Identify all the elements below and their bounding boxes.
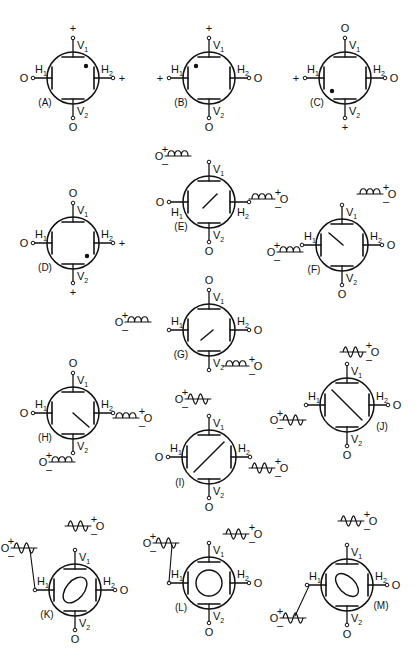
beam-trace-line — [203, 194, 217, 208]
label-v2-sub: 2 — [358, 440, 362, 447]
terminal-h1 — [31, 411, 35, 415]
label-h1-sub: 1 — [315, 70, 319, 77]
source-lead-wire — [295, 586, 309, 616]
caption-f: (F) — [308, 264, 321, 275]
polarity-h2: + — [119, 237, 125, 249]
crt-deflection-figure: V1V2H1H2+OO+(A)V1V2H1H2+O+O(B)V1V2H1H2O+… — [0, 0, 419, 658]
polarity-h2: O — [392, 579, 401, 591]
beam-trace-ellipse — [58, 573, 91, 608]
source-terminal: O — [369, 515, 378, 527]
crt-diagram-i: V1V2H1H2OO(I)+–O+–O — [155, 386, 289, 513]
label-v2-sub: 2 — [356, 112, 360, 119]
crt-envelope-circle — [183, 557, 235, 609]
dc-source-coil-icon — [226, 361, 246, 366]
beam-spot — [84, 64, 88, 68]
terminal-h1 — [300, 243, 304, 247]
label-v1-sub: 1 — [84, 46, 88, 53]
terminal-v1 — [71, 371, 75, 375]
crt-diagram-c: V1V2H1H2O++O(C) — [293, 22, 399, 133]
label-h2: H2 — [237, 568, 249, 582]
dc-source-h1: +–O — [115, 309, 151, 335]
ac-source-h1: +–O — [1, 535, 37, 589]
ac-source-v1: +–O — [175, 386, 211, 412]
crt-diagram-g: V1V2H1H2OO(G)+–O+–O — [115, 274, 263, 379]
label-h2-sub: 2 — [245, 213, 249, 220]
source-terminal: O — [270, 414, 279, 426]
crt-envelope-circle — [321, 559, 373, 611]
terminal-h1 — [167, 76, 171, 80]
caption-b: (B) — [174, 97, 187, 108]
label-h1: H1 — [171, 63, 183, 77]
terminal-v2 — [207, 116, 211, 120]
polarity-v2: O — [205, 626, 214, 638]
label-v2-sub: 2 — [84, 112, 88, 119]
crt-diagram-j: V1V2H1H2OO(J)+–O+–O — [270, 339, 402, 461]
dc-source-coil-icon — [52, 457, 72, 462]
terminal-v1 — [207, 160, 211, 164]
label-v1-sub: 1 — [84, 211, 88, 218]
crt-diagram-a: V1V2H1H2+OO+(A) — [20, 22, 126, 133]
caption-l: (L) — [175, 602, 187, 613]
label-h2: H2 — [238, 442, 250, 456]
crt-envelope-circle — [47, 217, 99, 269]
ac-source-v1: +–O — [338, 508, 378, 534]
crt-envelope-circle — [49, 564, 101, 616]
label-v2-sub: 2 — [84, 447, 88, 454]
crt-envelope-circle — [183, 52, 235, 104]
label-h2: H2 — [237, 63, 249, 77]
label-v2: V2 — [213, 357, 224, 371]
label-h2: H2 — [373, 63, 385, 77]
label-h2-sub: 2 — [109, 70, 113, 77]
beam-trace-line — [194, 442, 224, 472]
label-v2-sub: 2 — [86, 624, 90, 631]
beam-trace-line — [201, 330, 213, 340]
label-v2: V2 — [77, 440, 88, 454]
label-h2: H2 — [237, 206, 249, 220]
terminal-v1 — [207, 288, 211, 292]
polarity-v1: + — [206, 22, 212, 34]
label-v2: V2 — [213, 229, 224, 243]
label-h2-sub: 2 — [378, 237, 382, 244]
dc-source-h1: +–O — [267, 239, 303, 265]
label-h2-sub: 2 — [381, 70, 385, 77]
polarity-v1: O — [69, 187, 78, 199]
beam-spot — [194, 64, 198, 68]
label-v2-sub: 2 — [84, 277, 88, 284]
label-h1: H1 — [170, 442, 182, 456]
beam-spot — [85, 254, 89, 258]
terminal-v1 — [73, 548, 77, 552]
source-terminal: O — [1, 542, 10, 554]
label-v1-sub: 1 — [86, 558, 90, 565]
dc-source-v1: +–O — [155, 143, 191, 169]
terminal-v2 — [71, 451, 75, 455]
label-h1-sub: 1 — [317, 577, 321, 584]
crt-envelope-circle — [47, 52, 99, 104]
terminal-v2 — [207, 496, 211, 500]
caption-g: (G) — [174, 349, 188, 360]
crt-diagram-d: V1V2H1H2O+O+(D) — [20, 187, 126, 298]
label-v2: V2 — [77, 270, 88, 284]
label-h1: H1 — [304, 230, 316, 244]
label-h2: H2 — [101, 228, 113, 242]
dc-source-coil-icon — [116, 413, 136, 418]
terminal-h1 — [303, 76, 307, 80]
caption-d: (D) — [38, 262, 52, 273]
dc-source-h2: +–O — [113, 405, 153, 431]
polarity-h2: O — [393, 399, 402, 411]
ac-source-v1: +–O — [340, 339, 380, 365]
ac-source-v1: +–O — [65, 513, 105, 539]
polarity-h2: O — [120, 584, 129, 596]
label-h2: H2 — [375, 570, 387, 584]
ac-source-h2: +–O — [249, 455, 289, 481]
label-h2-sub: 2 — [111, 582, 115, 589]
terminal-h1 — [31, 76, 35, 80]
dc-source-v2: +–O — [39, 449, 75, 475]
label-h2: H2 — [376, 390, 388, 404]
terminal-v2 — [207, 621, 211, 625]
dc-source-v1: +–O — [357, 181, 397, 207]
label-h2: H2 — [370, 230, 382, 244]
source-terminal: O — [144, 412, 153, 424]
label-v1-sub: 1 — [220, 46, 224, 53]
dc-source-coil-icon — [280, 247, 300, 252]
terminal-v2 — [343, 116, 347, 120]
